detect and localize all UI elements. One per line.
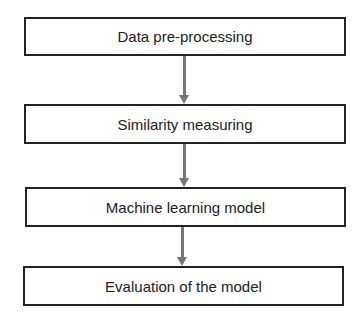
step-machine-learning-model: Machine learning model bbox=[25, 187, 346, 227]
step-label: Similarity measuring bbox=[117, 116, 252, 133]
arrowhead-1-icon bbox=[179, 95, 189, 104]
arrowhead-3-icon bbox=[177, 257, 187, 266]
step-similarity-measuring: Similarity measuring bbox=[24, 104, 346, 144]
arrow-3 bbox=[181, 227, 184, 258]
step-label: Evaluation of the model bbox=[105, 278, 262, 295]
arrow-2 bbox=[183, 144, 186, 179]
step-label: Machine learning model bbox=[106, 199, 265, 216]
arrowhead-2-icon bbox=[179, 178, 189, 187]
arrow-1 bbox=[183, 56, 186, 96]
step-evaluation-of-the-model: Evaluation of the model bbox=[23, 266, 344, 306]
step-label: Data pre-processing bbox=[117, 28, 252, 45]
step-data-preprocessing: Data pre-processing bbox=[24, 17, 346, 56]
